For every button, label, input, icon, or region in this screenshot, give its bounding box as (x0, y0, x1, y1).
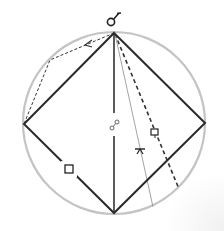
t-marker-icon (135, 149, 145, 154)
center-link-icon (110, 120, 119, 130)
right-dashed-line (115, 34, 179, 189)
flag-marker-icon (151, 129, 158, 138)
geometry-diagram (0, 0, 224, 231)
top-pin-icon (107, 13, 121, 26)
